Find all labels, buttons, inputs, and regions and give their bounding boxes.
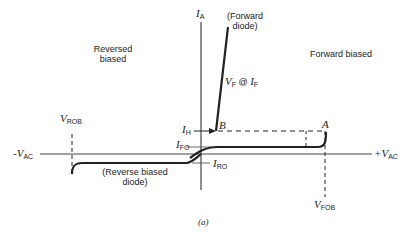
pos-vac-main: +V xyxy=(374,147,388,159)
reverse-diode-label: (Reverse biased diode) xyxy=(100,167,170,187)
forward-diode-line1: (Forward xyxy=(225,11,265,21)
ifo-label: IFO xyxy=(176,139,189,153)
pos-vac-sub: AC xyxy=(388,153,398,160)
iro-sub: RO xyxy=(217,163,228,170)
vf-main: V xyxy=(225,75,232,87)
forward-biased-label: Forward biased xyxy=(310,49,372,59)
y-axis-label: IA xyxy=(196,8,204,22)
point-b-label: B xyxy=(219,120,226,130)
forward-diode-label: (Forward diode) xyxy=(225,11,265,31)
vrob-main: V xyxy=(60,112,67,124)
ih-sub: H xyxy=(186,129,191,136)
vrob-sub: ROB xyxy=(67,118,82,125)
neg-vac-sub: AC xyxy=(23,153,33,160)
iro-label: IRO xyxy=(213,158,227,172)
figure-caption: (a) xyxy=(198,217,209,227)
pos-vac-label: +VAC xyxy=(374,148,398,162)
vfob-main: V xyxy=(314,198,321,210)
reverse-diode-line2: diode) xyxy=(100,177,170,187)
vfob-sub: FOB xyxy=(321,204,335,211)
neg-vac-label: -VAC xyxy=(13,148,33,162)
at-symbol: @ xyxy=(236,77,250,87)
vf-at-if-label: VF @ IF xyxy=(225,76,258,90)
forward-diode-line2: diode) xyxy=(225,21,265,31)
reversed-line2: biased xyxy=(92,54,134,64)
ih-arrowhead xyxy=(209,128,216,134)
vrob-label: VROB xyxy=(60,113,82,127)
point-a-label: A xyxy=(322,119,329,129)
reversed-biased-label: Reversed biased xyxy=(92,44,134,64)
neg-vac-main: -V xyxy=(13,147,23,159)
ih-label: IH xyxy=(182,124,191,138)
reversed-line1: Reversed xyxy=(92,44,134,54)
ifo-sub: FO xyxy=(180,144,190,151)
vfob-label: VFOB xyxy=(314,199,335,213)
reverse-diode-line1: (Reverse biased xyxy=(100,167,170,177)
if-sub: F xyxy=(254,81,258,88)
ia-sub: A xyxy=(200,13,205,20)
